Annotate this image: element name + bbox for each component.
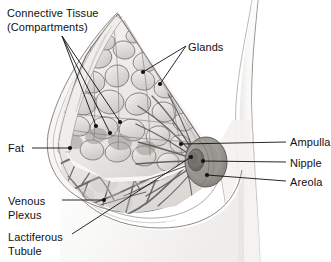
anatomy-illustration bbox=[0, 0, 331, 262]
label-lactiferous-tubule-line1: Lactiferous bbox=[8, 230, 63, 244]
label-connective-tissue-line2: (Compartments) bbox=[7, 20, 99, 34]
areola-nipple-complex bbox=[185, 137, 227, 188]
label-areola: Areola bbox=[290, 176, 322, 189]
label-glands: Glands bbox=[188, 41, 223, 54]
label-nipple: Nipple bbox=[290, 157, 322, 170]
label-lactiferous-tubule: Lactiferous Tubule bbox=[8, 230, 63, 258]
label-lactiferous-tubule-line2: Tubule bbox=[8, 244, 63, 258]
label-connective-tissue-line1: Connective Tissue bbox=[7, 6, 99, 20]
label-venous-plexus-line2: Plexus bbox=[8, 208, 45, 222]
label-venous-plexus-line1: Venous bbox=[8, 194, 45, 208]
label-connective-tissue: Connective Tissue (Compartments) bbox=[7, 6, 99, 34]
breast-anatomy-figure: Connective Tissue (Compartments) Glands … bbox=[0, 0, 331, 262]
label-ampulla: Ampulla bbox=[290, 136, 330, 149]
label-fat: Fat bbox=[8, 142, 24, 155]
label-venous-plexus: Venous Plexus bbox=[8, 194, 45, 222]
